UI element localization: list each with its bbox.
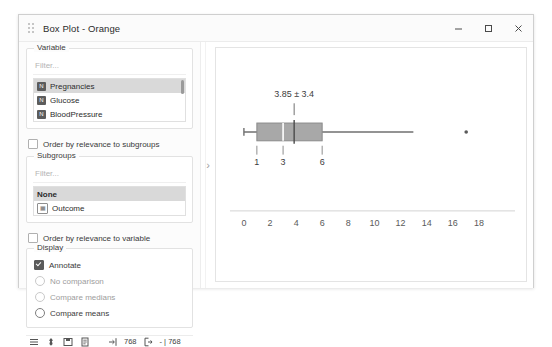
radio-compare-means[interactable]: Compare means [35, 308, 184, 318]
q3-label: 6 [320, 158, 325, 168]
list-item-label: Pregnancies [50, 82, 94, 91]
radio-label: Compare medians [50, 293, 115, 302]
status-bar: 768 - | 768 [26, 335, 193, 347]
radio-box [35, 292, 45, 302]
variable-listbox[interactable]: N Pregnancies N Glucose N BloodPressure [33, 78, 186, 122]
radio-box [35, 276, 45, 286]
title-bar: Box Plot - Orange [19, 15, 533, 42]
checkbox-box [34, 260, 44, 270]
variable-filter-input[interactable]: Filter... [33, 59, 186, 75]
numeric-variable-icon: N [37, 96, 46, 105]
panel-splitter[interactable]: › [201, 42, 215, 288]
checkbox-label: Order by relevance to variable [43, 234, 150, 243]
x-tick-label: 10 [370, 218, 380, 228]
mean-annotation: 3.85 ± 3.4 [274, 89, 314, 99]
output-arrow-icon [143, 336, 154, 347]
report-icon[interactable] [79, 336, 90, 347]
box-plot-window: Box Plot - Orange Variable Filter... N [18, 14, 534, 288]
window-title: Box Plot - Orange [43, 23, 120, 34]
list-item-label: Outcome [52, 204, 84, 213]
close-button[interactable] [503, 15, 533, 41]
window-grip-icon [28, 23, 37, 34]
x-tick-label: 0 [241, 218, 246, 228]
radio-label: Compare means [50, 309, 109, 318]
x-tick-label: 14 [422, 218, 432, 228]
variable-group: Variable Filter... N Pregnancies N Gluco… [26, 48, 193, 129]
annotate-checkbox[interactable]: Annotate [34, 260, 184, 270]
input-arrow-icon [107, 336, 118, 347]
radio-compare-medians[interactable]: Compare medians [35, 292, 184, 302]
subgroups-group-title: Subgroups [34, 151, 79, 160]
x-axis-ticks: 0 2 4 6 8 10 12 14 16 18 [241, 218, 484, 228]
x-tick-label: 4 [294, 218, 299, 228]
display-group: Display Annotate No comparison Compare m… [26, 248, 193, 328]
checkbox-label: Annotate [49, 261, 81, 270]
radio-no-comparison[interactable]: No comparison [35, 276, 184, 286]
display-group-title: Display [34, 243, 66, 252]
output-count: - | 768 [160, 337, 181, 346]
order-by-relevance-variable-checkbox[interactable]: Order by relevance to variable [28, 233, 191, 243]
box-plot-svg: 3.85 ± 3.4 1 3 6 0 2 4 [216, 48, 526, 281]
list-item[interactable]: N Glucose [34, 93, 185, 107]
checkbox-box [28, 139, 38, 149]
control-panel: Variable Filter... N Pregnancies N Gluco… [19, 42, 201, 288]
list-item[interactable]: N Pregnancies [34, 79, 185, 93]
numeric-variable-icon: N [37, 82, 46, 91]
variable-group-title: Variable [34, 43, 69, 52]
window-controls [443, 15, 533, 41]
radio-box [35, 308, 45, 318]
plot-container: 3.85 ± 3.4 1 3 6 0 2 4 [215, 42, 533, 288]
box-plot-canvas[interactable]: 3.85 ± 3.4 1 3 6 0 2 4 [215, 47, 527, 282]
radio-label: No comparison [50, 277, 104, 286]
splitter-line [205, 42, 206, 288]
window-body: Variable Filter... N Pregnancies N Gluco… [19, 42, 533, 288]
subgroups-filter-input[interactable]: Filter... [33, 167, 186, 183]
order-by-relevance-subgroups-checkbox[interactable]: Order by relevance to subgroups [28, 139, 191, 149]
subgroups-group: Subgroups Filter... None ▦ Outcome [26, 156, 193, 223]
pin-icon[interactable] [45, 336, 56, 347]
q1-label: 1 [254, 158, 259, 168]
checkbox-label: Order by relevance to subgroups [43, 140, 160, 149]
x-tick-label: 12 [396, 218, 406, 228]
chevron-right-icon[interactable]: › [206, 160, 210, 171]
list-item[interactable]: ▦ Outcome [34, 201, 185, 215]
subgroups-listbox[interactable]: None ▦ Outcome [33, 186, 186, 216]
menu-icon[interactable] [28, 336, 39, 347]
list-item[interactable]: N BloodPressure [34, 107, 185, 121]
list-item[interactable]: None [34, 187, 185, 201]
categorical-variable-icon: ▦ [37, 203, 48, 214]
box-iqr [257, 123, 322, 141]
outlier-point [464, 130, 468, 134]
checkbox-box [28, 233, 38, 243]
numeric-variable-icon: N [37, 110, 46, 119]
list-item-label: Glucose [50, 96, 79, 105]
x-tick-label: 18 [474, 218, 484, 228]
x-tick-label: 8 [346, 218, 351, 228]
x-tick-label: 6 [320, 218, 325, 228]
x-tick-label: 2 [268, 218, 273, 228]
list-item-label: BloodPressure [50, 110, 102, 119]
maximize-button[interactable] [473, 15, 503, 41]
minimize-button[interactable] [443, 15, 473, 41]
input-count: 768 [124, 337, 137, 346]
list-item-label: None [37, 190, 57, 199]
x-tick-label: 16 [448, 218, 458, 228]
save-icon[interactable] [62, 336, 73, 347]
variable-list-scrollbar[interactable] [181, 80, 184, 94]
median-label: 3 [281, 158, 286, 168]
